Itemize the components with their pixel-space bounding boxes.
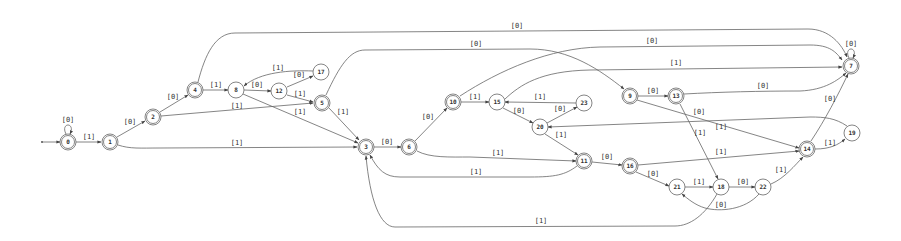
state-label: 18 [717, 183, 725, 190]
transition-label: [0] [124, 118, 137, 126]
state-3: 3 [358, 139, 374, 155]
transition-arrow-icon [548, 117, 847, 127]
transition-label: [1] [294, 90, 307, 98]
state-diagram: [0][1][0][1][0][1][0][1][0][1][0][1][1][… [0, 0, 901, 241]
states-layer: 01248121753610152320111621182291314197 [60, 58, 860, 195]
transition-label: [0] [62, 116, 75, 124]
state-21: 21 [669, 179, 685, 195]
state-label: 17 [317, 68, 325, 75]
state-13: 13 [668, 88, 684, 104]
transition-label: [1] [693, 178, 706, 186]
transition-label: [1] [715, 148, 728, 156]
transition-label: [1] [535, 217, 548, 225]
state-label: 20 [536, 123, 544, 130]
transition-23-to-15: [1] [505, 93, 576, 103]
transition-18-to-22: [0] [729, 178, 755, 187]
state-label: 21 [673, 183, 681, 190]
state-label: 0 [66, 138, 70, 145]
state-label: 22 [759, 183, 767, 190]
transition-20-to-11: [1] [545, 131, 578, 155]
state-1: 1 [102, 134, 118, 150]
state-label: 7 [849, 62, 853, 69]
transition-label: [1] [694, 129, 707, 137]
transition-6-to-10: [0] [415, 108, 447, 141]
transition-9-to-14: [1] [637, 100, 799, 148]
transition-label: [0] [167, 93, 180, 101]
transition-10-to-15: [1] [461, 93, 489, 102]
state-16: 16 [622, 158, 638, 174]
transition-12-to-17: [0] [287, 71, 313, 87]
transition-label: [1] [469, 93, 482, 101]
transition-1-to-3: [1] [118, 139, 357, 148]
transition-20-to-23: [0] [547, 105, 577, 123]
transition-arrow-icon [592, 162, 622, 165]
transition-label: [0] [737, 178, 750, 186]
state-4: 4 [187, 82, 203, 98]
transition-2-to-4: [0] [160, 93, 188, 112]
transition-9-to-13: [0] [638, 87, 668, 96]
transition-4-to-8: [1] [203, 81, 228, 90]
transition-label: [0] [693, 108, 706, 116]
state-label: 10 [449, 98, 457, 105]
transition-0-to-0: [0] [62, 116, 75, 134]
transition-label: [1] [670, 59, 683, 67]
transition-label: [0] [511, 22, 524, 30]
transition-label: [0] [293, 71, 306, 79]
state-label: 19 [848, 129, 856, 136]
transition-label: [1] [492, 149, 505, 157]
state-label: 11 [580, 157, 588, 164]
state-label: 4 [193, 86, 197, 93]
state-20: 20 [532, 119, 548, 135]
state-19: 19 [844, 125, 860, 141]
state-9: 9 [622, 88, 638, 104]
state-label: 16 [626, 162, 634, 169]
transition-0-to-1: [1] [76, 133, 101, 142]
state-17: 17 [313, 64, 329, 80]
transition-label: [0] [757, 82, 770, 90]
transition-label: [1] [83, 133, 96, 141]
state-label: 3 [364, 143, 368, 150]
state-18: 18 [713, 179, 729, 195]
transition-label: [1] [775, 166, 788, 174]
transition-label: [1] [715, 123, 728, 131]
transition-label: [0] [845, 40, 858, 48]
transition-arrow-icon [65, 125, 72, 134]
state-label: 6 [407, 143, 411, 150]
state-5: 5 [314, 95, 330, 111]
transition-8-to-3: [1] [243, 94, 358, 143]
state-8: 8 [228, 82, 244, 98]
transition-arrow-icon [244, 90, 271, 91]
state-7: 7 [843, 58, 859, 74]
transition-label: [1] [337, 108, 350, 116]
transition-11-to-16: [0] [592, 153, 622, 165]
transition-18-to-3: [1] [366, 156, 717, 227]
transition-12-to-5: [1] [287, 90, 313, 102]
transition-label: [0] [647, 87, 660, 95]
transition-label: [1] [231, 102, 244, 110]
transition-label: [1] [470, 168, 483, 176]
transition-arrow-icon [505, 102, 576, 103]
transition-label: [0] [513, 107, 526, 115]
transition-label: [0] [381, 138, 394, 146]
transition-arrow-icon [848, 49, 855, 58]
state-10: 10 [445, 94, 461, 110]
transition-label: [1] [824, 139, 837, 147]
state-6: 6 [401, 139, 417, 155]
transition-11-to-3: [1] [370, 155, 577, 177]
transition-label: [1] [272, 64, 285, 72]
state-label: 12 [275, 87, 283, 94]
transition-label: [1] [534, 93, 547, 101]
state-15: 15 [489, 94, 505, 110]
transition-21-to-18: [1] [685, 178, 713, 187]
state-2: 2 [145, 109, 161, 125]
transition-label: [0] [715, 201, 728, 209]
state-label: 23 [580, 99, 588, 106]
transition-1-to-2: [0] [117, 118, 145, 137]
transition-19-to-20: [0] [548, 108, 847, 127]
edges-layer: [0][1][0][1][0][1][0][1][0][1][0][1][1][… [62, 22, 858, 227]
state-0: 0 [60, 134, 76, 150]
transition-label: [1] [294, 108, 307, 116]
state-label: 8 [234, 86, 238, 93]
state-label: 14 [803, 145, 811, 152]
transition-5-to-3: [1] [329, 108, 359, 140]
